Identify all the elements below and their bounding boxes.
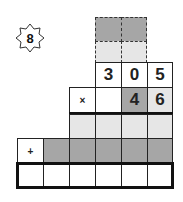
final-answer-frame — [16, 162, 174, 189]
carry-cell[interactable] — [95, 17, 122, 42]
digit-cell: 6 — [147, 87, 173, 113]
carry-cell[interactable] — [95, 41, 122, 63]
answer-cell[interactable] — [147, 114, 173, 139]
digit-cell: 0 — [121, 62, 148, 88]
carry-cell[interactable] — [121, 17, 147, 42]
carry-cell[interactable] — [121, 41, 147, 63]
digit-cell — [95, 87, 122, 113]
answer-cell[interactable] — [147, 138, 173, 164]
plus-sign: + — [17, 138, 44, 164]
problem-number: 8 — [15, 23, 45, 53]
answer-cell[interactable] — [95, 138, 122, 164]
answer-cell[interactable] — [121, 138, 148, 164]
answer-cell[interactable] — [95, 114, 122, 139]
problem-number-badge: 8 — [15, 23, 45, 53]
answer-cell[interactable] — [43, 138, 70, 164]
answer-cell[interactable] — [69, 114, 96, 139]
digit-cell: 5 — [147, 62, 173, 88]
answer-cell[interactable] — [121, 114, 148, 139]
digit-cell: 4 — [121, 87, 148, 113]
digit-cell: 3 — [95, 62, 122, 88]
multiply-sign: × — [69, 87, 96, 113]
answer-cell[interactable] — [69, 138, 96, 164]
